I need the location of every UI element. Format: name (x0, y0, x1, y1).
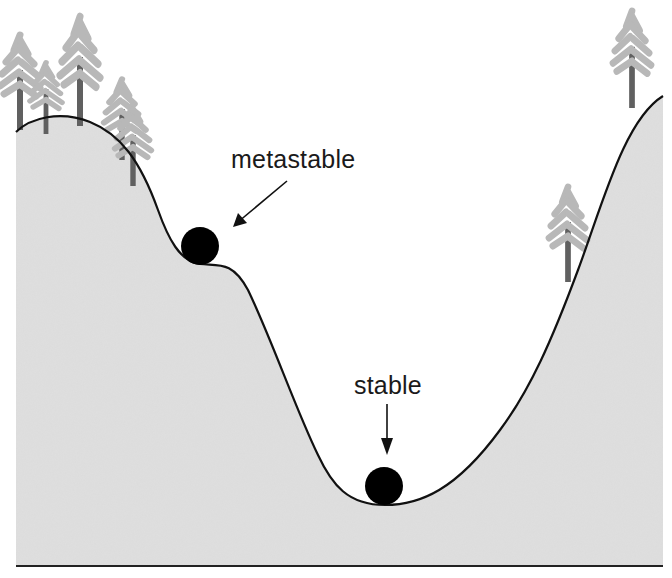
stable-label: stable (354, 371, 422, 400)
tree-icon (60, 17, 100, 126)
energy-landscape-diagram (0, 0, 672, 578)
metastable-ball (181, 227, 219, 265)
metastable-arrow-icon (233, 181, 287, 227)
tree-icon (613, 11, 651, 108)
stable-arrow-icon (381, 404, 393, 455)
stable-ball (365, 467, 403, 505)
metastable-label: metastable (231, 145, 355, 174)
